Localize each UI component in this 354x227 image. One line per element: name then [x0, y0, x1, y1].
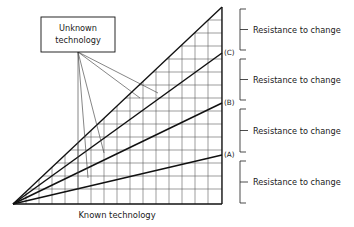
- bracket-4-group: Resistance to change: [240, 161, 341, 203]
- bracket-1-group: Resistance to change: [240, 9, 341, 50]
- bracket-2-label: Resistance to change: [253, 75, 341, 85]
- x-axis-label: Known technology: [78, 210, 155, 220]
- bracket-3-label: Resistance to change: [253, 126, 341, 136]
- marker-a-label: (A): [224, 150, 235, 159]
- marker-c-label: (C): [224, 48, 235, 57]
- band-divider-lines: [13, 53, 222, 204]
- band-line-c: [13, 53, 222, 204]
- bracket-1-label: Resistance to change: [253, 25, 341, 35]
- callout-line-1: Unknown: [59, 23, 97, 33]
- callout-line-2: technology: [55, 35, 101, 45]
- bracket-4-label: Resistance to change: [253, 177, 341, 187]
- marker-b-label: (B): [224, 98, 235, 107]
- technology-resistance-diagram: Unknown technology Known technology (C) …: [0, 0, 354, 227]
- callout-leader-lines: [78, 52, 158, 190]
- band-line-a: [13, 155, 222, 204]
- bracket-3-group: Resistance to change: [240, 109, 341, 152]
- bracket-2-group: Resistance to change: [240, 59, 341, 100]
